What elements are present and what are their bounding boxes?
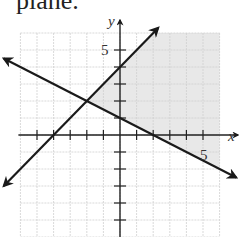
x-axis-label: x — [227, 128, 235, 144]
y-tick-label-5: 5 — [101, 42, 109, 58]
y-axis-label: y — [106, 13, 115, 29]
x-tick-label-5: 5 — [200, 147, 208, 163]
coordinate-plane: x y 5 5 — [0, 0, 247, 237]
